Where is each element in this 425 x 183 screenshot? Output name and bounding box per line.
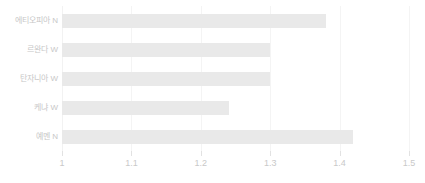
category-label: 탄자니아 W: [0, 64, 58, 93]
category-label: 에티오피아 N: [0, 6, 58, 35]
bar-row: [62, 6, 409, 35]
x-axis: 11.11.21.31.41.5: [62, 151, 409, 181]
bar[interactable]: [62, 43, 270, 57]
x-tick-label: 1.2: [186, 158, 216, 168]
x-tick-mark: [409, 151, 410, 156]
category-label: 예멘 N: [0, 122, 58, 151]
bar[interactable]: [62, 130, 353, 144]
x-tick-mark: [340, 151, 341, 156]
x-tick-mark: [201, 151, 202, 156]
plot-area: [62, 6, 409, 151]
x-tick-label: 1.4: [325, 158, 355, 168]
bars-layer: [62, 6, 409, 151]
bar[interactable]: [62, 72, 270, 86]
bar-row: [62, 35, 409, 64]
category-label: 르완다 W: [0, 35, 58, 64]
x-tick-mark: [131, 151, 132, 156]
bar-row: [62, 122, 409, 151]
category-label: 케냐 W: [0, 93, 58, 122]
x-tick-mark: [62, 151, 63, 156]
x-tick-mark: [270, 151, 271, 156]
bar-chart: 에티오피아 N르완다 W탄자니아 W케냐 W예멘 N 11.11.21.31.4…: [0, 0, 425, 183]
x-tick-label: 1.5: [394, 158, 424, 168]
bar-row: [62, 93, 409, 122]
bar[interactable]: [62, 14, 326, 28]
bar-row: [62, 64, 409, 93]
bar[interactable]: [62, 101, 229, 115]
x-tick-label: 1: [47, 158, 77, 168]
category-axis-labels: 에티오피아 N르완다 W탄자니아 W케냐 W예멘 N: [0, 6, 58, 151]
x-tick-label: 1.1: [116, 158, 146, 168]
gridline-1-5: [409, 6, 410, 151]
x-tick-label: 1.3: [255, 158, 285, 168]
